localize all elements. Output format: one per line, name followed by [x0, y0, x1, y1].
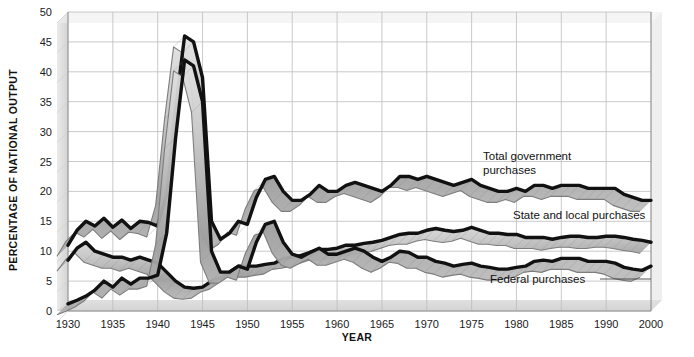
y-tick-label: 50: [40, 6, 52, 18]
y-tick-label: 20: [40, 185, 52, 197]
x-tick-label: 1940: [145, 318, 169, 330]
y-tick-label: 45: [40, 36, 52, 48]
y-tick-label: 40: [40, 66, 52, 78]
y-tick-label: 10: [40, 245, 52, 257]
x-tick-label: 1980: [504, 318, 528, 330]
x-tick-label: 1930: [56, 318, 80, 330]
annotation-total-line1: Total government: [483, 150, 572, 162]
x-tick-label: 2000: [639, 318, 663, 330]
x-tick-label: 1945: [190, 318, 214, 330]
x-tick-label: 1975: [459, 318, 483, 330]
chart-container: 0510152025303540455019301935194019451950…: [0, 0, 694, 357]
x-axis-title: YEAR: [342, 331, 373, 343]
y-tick-label: 25: [40, 156, 52, 168]
x-tick-label: 1990: [594, 318, 618, 330]
y-tick-label: 5: [46, 275, 52, 287]
x-tick-label: 1965: [370, 318, 394, 330]
y-tick-label: 0: [46, 305, 52, 317]
government-purchases-line-chart: 0510152025303540455019301935194019451950…: [0, 0, 694, 357]
annotation-total-line2: purchases: [483, 164, 536, 176]
annotation-federal-label: Federal purchases: [490, 273, 585, 285]
y-tick-label: 35: [40, 96, 52, 108]
annotation-state-local: State and local purchases: [513, 209, 646, 221]
y-tick-label: 15: [40, 215, 52, 227]
x-tick-label: 1935: [101, 318, 125, 330]
y-tick-label: 30: [40, 126, 52, 138]
annotation-state-local-label: State and local purchases: [513, 209, 646, 221]
x-tick-label: 1970: [415, 318, 439, 330]
x-tick-label: 1960: [325, 318, 349, 330]
x-tick-label: 1985: [549, 318, 573, 330]
y-axis-title: PERCENTAGE OF NATIONAL OUTPUT: [7, 69, 19, 271]
x-tick-label: 1955: [280, 318, 304, 330]
x-tick-label: 1950: [235, 318, 259, 330]
